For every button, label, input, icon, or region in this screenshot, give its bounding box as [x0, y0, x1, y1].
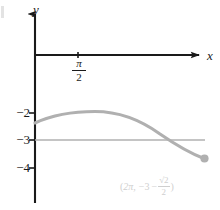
cosine-curve: [35, 112, 204, 159]
x-axis-label: x: [207, 48, 213, 64]
annotation-fraction: √2 2: [158, 176, 169, 197]
x-tick-label-pi-over-2: π 2: [68, 58, 90, 83]
y-tick-label-minus4: −4: [4, 160, 30, 176]
annotation-minus-sign: −: [152, 181, 158, 192]
endpoint-annotation: ( 2π, −3 − √2 2 ): [120, 176, 174, 197]
y-axis-label: y: [33, 2, 39, 18]
y-tick-label-minus3: −3: [4, 132, 30, 148]
endpoint-dot: [200, 154, 208, 162]
annotation-x-value: 2π,: [123, 181, 136, 192]
annotation-close-paren: ): [171, 181, 174, 192]
graph-canvas: [0, 0, 220, 210]
pi-denominator: 2: [68, 72, 90, 83]
graph-figure: y x −2 −3 −4 π 2 ( 2π, −3 − √2 2 ): [0, 0, 220, 210]
pi-numerator: π: [68, 58, 90, 69]
annotation-y-lead: −3: [139, 181, 150, 192]
annotation-frac-denominator: 2: [161, 188, 168, 197]
annotation-frac-numerator: √2: [158, 176, 169, 185]
y-tick-label-minus2: −2: [4, 105, 30, 121]
